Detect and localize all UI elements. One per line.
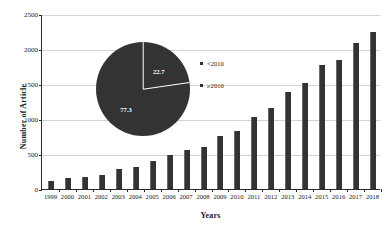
x-tick-mark [212, 189, 213, 192]
x-tick-label: 2001 [78, 193, 91, 200]
x-tick-label: 2009 [213, 193, 226, 200]
bar [201, 147, 207, 189]
bar [302, 83, 308, 189]
y-tick-mark [39, 190, 42, 191]
bar [116, 169, 122, 189]
x-tick-label: 2002 [95, 193, 108, 200]
bar [285, 92, 291, 189]
x-tick-mark [245, 189, 246, 192]
y-tick-label: 500 [28, 151, 39, 159]
bar [234, 131, 240, 189]
x-tick-label: 2013 [281, 193, 294, 200]
bar [150, 161, 156, 189]
x-tick-label: 2011 [247, 193, 260, 200]
inset-pie-chart: 22.7 77.3 [96, 42, 190, 136]
x-tick-mark [110, 189, 111, 192]
x-tick-label: 2014 [298, 193, 311, 200]
x-tick-mark [127, 189, 128, 192]
bar [99, 175, 105, 189]
y-tick-label: 2500 [24, 11, 38, 19]
x-tick-label: 2018 [366, 193, 379, 200]
bar [268, 108, 274, 189]
bar [48, 181, 54, 189]
chart-figure: Number of Article 05001000150020002500 1… [0, 0, 391, 236]
x-tick-label: 2006 [163, 193, 176, 200]
legend-swatch-icon [200, 62, 203, 65]
y-tick-label: 1500 [24, 81, 38, 89]
bar [319, 65, 325, 189]
legend-swatch-icon [200, 84, 203, 87]
x-tick-mark [228, 189, 229, 192]
bar [251, 117, 257, 189]
x-tick-label: 2007 [179, 193, 192, 200]
pie-slice-divider [142, 42, 143, 89]
plot-area: 05001000150020002500 1999200020012002200… [41, 15, 380, 190]
x-tick-label: 2000 [61, 193, 74, 200]
pie-slice-label-large: 77.3 [120, 105, 132, 112]
bar [65, 178, 71, 189]
x-tick-label: 2012 [264, 193, 277, 200]
legend-label: <2010 [207, 60, 224, 67]
x-tick-label: 2005 [146, 193, 159, 200]
pie-slice-label-small: 22.7 [153, 67, 165, 74]
bar [336, 60, 342, 189]
x-tick-label: 2015 [315, 193, 328, 200]
x-tick-label: 2004 [129, 193, 142, 200]
x-tick-mark [262, 189, 263, 192]
x-tick-mark [296, 189, 297, 192]
x-tick-mark [161, 189, 162, 192]
x-tick-label: 1999 [44, 193, 57, 200]
y-tick-label: 0 [35, 186, 39, 194]
bar [167, 155, 173, 189]
y-tick-label: 2000 [24, 46, 38, 54]
legend-item-before-2010: <2010 [200, 59, 270, 67]
x-tick-mark [347, 189, 348, 192]
x-tick-mark [195, 189, 196, 192]
x-tick-mark [178, 189, 179, 192]
pie-legend: <2010 ≥2010 [200, 59, 270, 103]
pie-circle [96, 42, 190, 136]
x-tick-mark [93, 189, 94, 192]
legend-item-from-2010: ≥2010 [200, 81, 270, 89]
x-tick-mark [330, 189, 331, 192]
x-tick-label: 2017 [349, 193, 362, 200]
x-tick-mark [313, 189, 314, 192]
x-tick-label: 2016 [332, 193, 345, 200]
x-axis-title: Years [41, 211, 380, 220]
bar [353, 43, 359, 189]
bar [217, 136, 223, 189]
legend-label: ≥2010 [207, 82, 224, 89]
bar [370, 32, 376, 189]
x-tick-label: 2003 [112, 193, 125, 200]
x-tick-mark [76, 189, 77, 192]
bar [184, 150, 190, 189]
x-tick-mark [59, 189, 60, 192]
bar [82, 177, 88, 189]
x-tick-mark [144, 189, 145, 192]
x-tick-label: 2008 [196, 193, 209, 200]
pie-slice-divider [143, 82, 190, 90]
y-tick-label: 1000 [24, 116, 38, 124]
x-tick-mark [381, 189, 382, 192]
x-tick-mark [364, 189, 365, 192]
x-tick-label: 2010 [230, 193, 243, 200]
bar [133, 167, 139, 189]
x-tick-mark [279, 189, 280, 192]
